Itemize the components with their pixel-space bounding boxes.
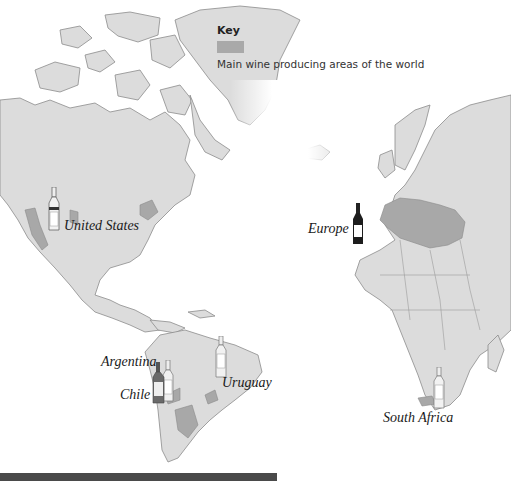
bottle-icon-europe [351,203,365,245]
label-south-africa: South Africa [383,410,453,426]
ocean-fade [230,80,350,340]
key-description: Main wine producing areas of the world [217,58,424,70]
bottle-icon-united-states [47,187,61,231]
label-europe: Europe [308,221,349,237]
bottom-bar [0,473,277,481]
bottle-icon-uruguay [215,336,227,378]
label-chile: Chile [120,387,150,403]
label-united-states: United States [64,218,139,234]
bottle-icon-south-africa [433,367,445,409]
label-argentina: Argentina [101,354,156,370]
eurasia-africa [355,95,511,410]
key-swatch-wine-area [217,41,244,53]
key-title: Key [217,24,424,37]
label-uruguay: Uruguay [222,375,272,391]
map-key: Key Main wine producing areas of the wor… [217,24,424,70]
